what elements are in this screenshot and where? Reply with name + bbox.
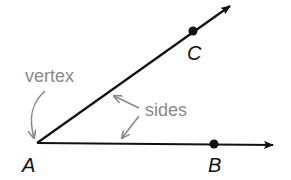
point-a-label: A: [22, 155, 35, 175]
sides-annotation: sides: [145, 101, 187, 119]
angle-diagram: [0, 0, 291, 180]
sides-arrow-lower-icon: [122, 116, 139, 138]
point-c-dot: [189, 27, 198, 36]
sides-arrow-upper-icon: [114, 96, 139, 108]
point-c-label: C: [187, 43, 201, 63]
vertex-arrow-icon: [31, 91, 45, 138]
point-b-dot: [210, 140, 219, 149]
vertex-annotation: vertex: [25, 67, 74, 85]
ray-ab: [37, 143, 273, 145]
point-b-label: B: [208, 155, 221, 175]
